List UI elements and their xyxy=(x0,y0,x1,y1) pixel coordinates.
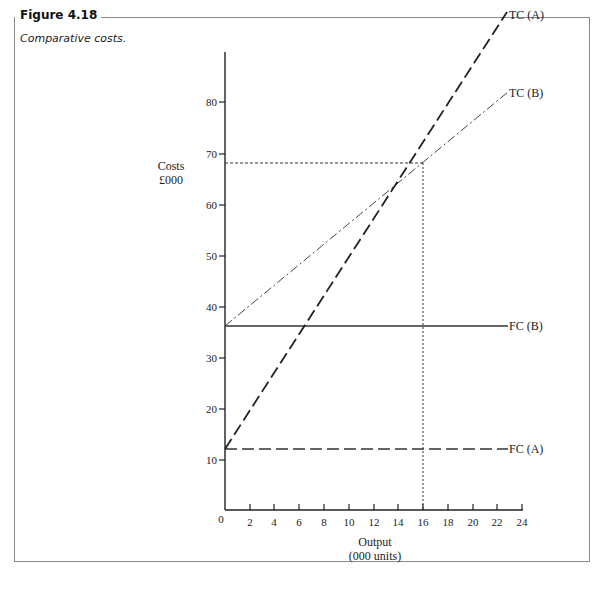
svg-text:6: 6 xyxy=(296,516,302,528)
tc-b-line xyxy=(225,92,508,326)
y-tick-labels: 10 20 30 40 50 60 70 80 xyxy=(206,96,218,466)
svg-text:14: 14 xyxy=(393,516,405,528)
x-axis-title-line2: (000 units) xyxy=(349,549,401,563)
svg-text:70: 70 xyxy=(206,148,218,160)
svg-text:0: 0 xyxy=(218,513,224,525)
svg-text:30: 30 xyxy=(206,352,218,364)
x-axis-title-line1: Output xyxy=(358,535,392,549)
y-axis-title-line2: £000 xyxy=(159,173,183,187)
label-tc-a: TC (A) xyxy=(509,8,544,22)
svg-text:24: 24 xyxy=(517,516,529,528)
svg-text:18: 18 xyxy=(443,516,455,528)
svg-text:22: 22 xyxy=(492,516,503,528)
x-ticks xyxy=(250,504,522,510)
svg-text:20: 20 xyxy=(468,516,480,528)
y-ticks xyxy=(219,102,225,460)
label-tc-b: TC (B) xyxy=(509,86,543,100)
svg-text:2: 2 xyxy=(247,516,253,528)
tc-a-line xyxy=(225,12,507,449)
svg-text:20: 20 xyxy=(206,403,218,415)
x-tick-labels: 0 2 4 6 8 10 12 14 16 18 20 22 24 xyxy=(218,513,528,528)
chart: 10 20 30 40 50 60 70 80 0 2 4 6 8 10 12 … xyxy=(0,0,598,589)
svg-text:60: 60 xyxy=(206,199,218,211)
svg-text:16: 16 xyxy=(418,516,430,528)
svg-text:10: 10 xyxy=(344,516,356,528)
svg-text:40: 40 xyxy=(206,301,218,313)
svg-text:10: 10 xyxy=(206,454,218,466)
y-axis-title-line1: Costs xyxy=(158,159,185,173)
label-fc-a: FC (A) xyxy=(509,442,543,456)
label-fc-b: FC (B) xyxy=(509,319,543,333)
svg-text:50: 50 xyxy=(206,250,218,262)
svg-text:4: 4 xyxy=(271,516,277,528)
svg-text:80: 80 xyxy=(206,96,218,108)
svg-text:12: 12 xyxy=(369,516,380,528)
svg-text:8: 8 xyxy=(321,516,327,528)
